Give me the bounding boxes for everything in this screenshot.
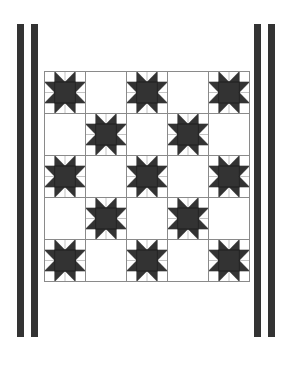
star-center — [55, 166, 76, 187]
right-stripe-inner — [254, 24, 261, 337]
star-center — [137, 82, 158, 103]
quilt-grid — [44, 71, 250, 283]
left-stripe-inner — [31, 24, 38, 337]
star-center — [137, 250, 158, 271]
star-center — [178, 208, 199, 229]
star-center — [96, 208, 117, 229]
star-center — [96, 124, 117, 145]
star-center — [219, 250, 240, 271]
star-center — [178, 124, 199, 145]
right-stripe-outer — [268, 24, 275, 337]
star-center — [55, 250, 76, 271]
star-center — [219, 166, 240, 187]
left-stripe-outer — [17, 24, 24, 337]
star-center — [137, 166, 158, 187]
star-center — [55, 82, 76, 103]
star-center — [219, 82, 240, 103]
